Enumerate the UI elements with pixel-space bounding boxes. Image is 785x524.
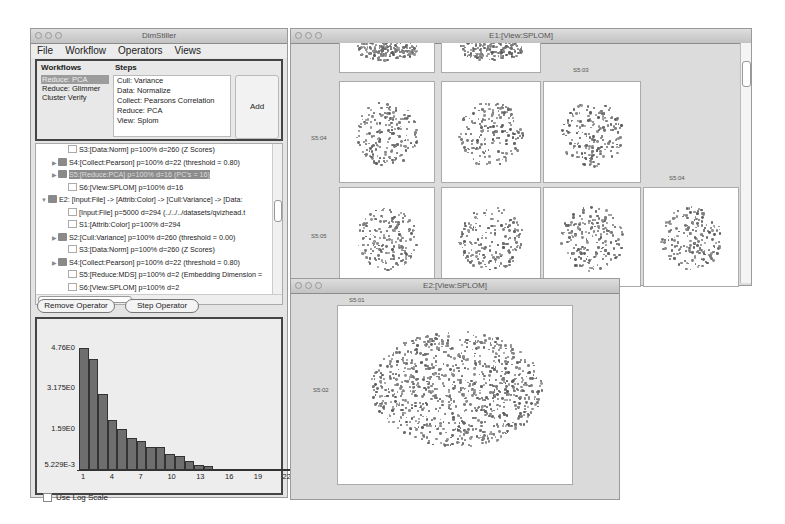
close-icon[interactable] xyxy=(295,282,302,289)
checkbox-icon[interactable] xyxy=(43,493,52,502)
y-tick-label: 1.59E0 xyxy=(39,424,75,433)
zoom-icon[interactable] xyxy=(315,282,322,289)
folder-icon xyxy=(58,170,67,178)
step-item[interactable]: View: Splom xyxy=(117,116,230,126)
minimize-icon[interactable] xyxy=(305,32,312,39)
add-button[interactable]: Add xyxy=(235,75,279,139)
operator-tree: S3:[Data:Norm] p=100% d=260 (Z Scores)▶S… xyxy=(35,143,283,305)
step-item[interactable]: Data: Normalize xyxy=(117,86,230,96)
tree-vertical-scrollbar[interactable] xyxy=(272,144,282,304)
workflow-item-reduce-pca[interactable]: Reduce: PCA xyxy=(41,75,109,84)
scroll-thumb[interactable] xyxy=(274,200,282,222)
tree-row[interactable]: S5:[Reduce:MDS] p=100% d=2 (Embedding Di… xyxy=(36,269,282,282)
x-axis xyxy=(77,470,281,471)
use-log-scale-label: Use Log Scale xyxy=(56,493,108,502)
tree-row-label: S6:[View:SPLOM] p=100% d=2 xyxy=(79,283,179,292)
menu-workflow[interactable]: Workflow xyxy=(65,44,106,58)
workflow-item-cluster-verify[interactable]: Cluster Verify xyxy=(41,93,109,102)
workflow-item-reduce-glimmer[interactable]: Reduce: Glimmer xyxy=(41,84,109,93)
expand-icon[interactable]: ▶ xyxy=(50,232,58,245)
document-icon xyxy=(68,270,77,278)
scroll-thumb[interactable] xyxy=(742,61,751,87)
y-axis-label: S5:02 xyxy=(313,387,329,393)
splom-cell[interactable] xyxy=(441,43,541,73)
expand-icon[interactable]: ▶ xyxy=(50,157,58,170)
window-title: E2:[View:SPLOM] xyxy=(423,281,487,290)
window-title: E1:[View:SPLOM] xyxy=(489,31,553,40)
minimize-icon[interactable] xyxy=(45,32,52,39)
menu-file[interactable]: File xyxy=(37,44,53,58)
folder-icon xyxy=(58,233,67,241)
scatter-plot[interactable] xyxy=(337,305,573,485)
tree-row[interactable]: ▼E2: [Input:File] -> [Attrib:Color] -> [… xyxy=(36,194,282,207)
main-titlebar[interactable]: DimStiller xyxy=(31,29,287,44)
tree-row[interactable]: ▶S2:[Cull:Variance] p=100% d=260 (thresh… xyxy=(36,232,282,245)
tree-row[interactable]: S6:[View:SPLOM] p=100% d=16 xyxy=(36,182,282,195)
splom-cell[interactable] xyxy=(339,81,435,183)
expand-icon[interactable]: ▶ xyxy=(50,257,58,270)
menu-bar: File Workflow Operators Views xyxy=(31,44,287,58)
minimize-icon[interactable] xyxy=(305,282,312,289)
tree-row[interactable]: ▶S5:[Reduce:PCA] p=100% d=16 (PC's = 16) xyxy=(36,169,282,182)
x-tick-label: 7 xyxy=(139,472,143,481)
splom-cell[interactable] xyxy=(339,187,435,287)
menu-views[interactable]: Views xyxy=(175,44,202,58)
histogram-bar xyxy=(165,454,175,470)
steps-list: Cull: Variance Data: Normalize Collect: … xyxy=(113,75,231,137)
splom-cell[interactable] xyxy=(643,187,739,287)
document-icon xyxy=(68,183,77,191)
tree-row[interactable]: ▶S4:[Collect:Pearson] p=100% d=22 (thres… xyxy=(36,157,282,170)
tree-row-label: S3:[Data:Norm] p=100% d=260 (Z Scores) xyxy=(79,145,215,154)
dimension-label: S5:04 xyxy=(311,135,327,141)
tree-row[interactable]: S3:[Data:Norm] p=100% d=260 (Z Scores) xyxy=(36,244,282,257)
tree-row-label: E2: [Input:File] -> [Attrib:Color] -> [C… xyxy=(59,195,242,204)
collapse-icon[interactable]: ▼ xyxy=(40,194,48,207)
histogram-bar xyxy=(175,456,185,470)
dimension-label: S5:03 xyxy=(573,67,589,73)
zoom-icon[interactable] xyxy=(315,32,322,39)
step-item[interactable]: Cull: Variance xyxy=(117,76,230,86)
use-log-scale-checkbox[interactable]: Use Log Scale xyxy=(43,493,108,502)
zoom-icon[interactable] xyxy=(55,32,62,39)
splom-vertical-scrollbar[interactable] xyxy=(740,43,751,283)
y-tick-label: 3.175E0 xyxy=(39,383,75,392)
step-item[interactable]: Collect: Pearsons Correlation xyxy=(117,96,230,106)
tree-row-label: S6:[View:SPLOM] p=100% d=16 xyxy=(79,183,183,192)
tree-row[interactable]: ▶S4:[Collect:Pearson] p=100% d=22 (thres… xyxy=(36,257,282,270)
x-tick-label: 10 xyxy=(167,472,175,481)
document-icon xyxy=(68,220,77,228)
menu-operators[interactable]: Operators xyxy=(118,44,162,58)
dimension-label: S5:05 xyxy=(311,233,327,239)
tree-row[interactable]: S6:[View:SPLOM] p=100% d=2 xyxy=(36,282,282,295)
tree-row-label: S5:[Reduce:PCA] p=100% d=16 (PC's = 16) xyxy=(69,170,210,179)
splom-titlebar[interactable]: E1:[View:SPLOM] xyxy=(291,29,751,44)
histogram-bar xyxy=(146,447,156,470)
remove-operator-button[interactable]: Remove Operator xyxy=(37,299,115,313)
tree-row-label: [Input:File] p=5000 d=294 (../../../data… xyxy=(79,208,245,217)
splom-cell[interactable] xyxy=(339,43,435,73)
step-operator-button[interactable]: Step Operator xyxy=(125,299,199,313)
tree-row[interactable]: S3:[Data:Norm] p=100% d=260 (Z Scores) xyxy=(36,144,282,157)
step-item[interactable]: Reduce: PCA xyxy=(117,106,230,116)
splom-cell[interactable] xyxy=(543,187,641,287)
scatter-titlebar[interactable]: E2:[View:SPLOM] xyxy=(291,279,619,294)
close-icon[interactable] xyxy=(35,32,42,39)
workflow-panel: Workflows Steps Reduce: PCA Reduce: Glim… xyxy=(35,59,283,141)
tree-row-label: S4:[Collect:Pearson] p=100% d=22 (thresh… xyxy=(69,258,240,267)
splom-cell[interactable] xyxy=(441,187,541,287)
histogram-bar xyxy=(89,359,99,470)
close-icon[interactable] xyxy=(295,32,302,39)
histogram-bar xyxy=(117,429,127,470)
histogram-bar xyxy=(156,447,166,470)
tree-row[interactable]: S1:[Attrib:Color] p=100% d=294 xyxy=(36,219,282,232)
histogram-bar xyxy=(137,441,147,470)
x-tick-label: 16 xyxy=(225,472,233,481)
tree-row[interactable]: [Input:File] p=5000 d=294 (../../../data… xyxy=(36,207,282,220)
dimstiller-window: DimStiller File Workflow Operators Views… xyxy=(30,28,288,498)
expand-icon[interactable]: ▶ xyxy=(50,169,58,182)
splom-cell[interactable] xyxy=(441,81,541,183)
document-icon xyxy=(68,145,77,153)
document-icon xyxy=(68,245,77,253)
x-tick-label: 13 xyxy=(196,472,204,481)
splom-cell[interactable] xyxy=(543,81,641,183)
